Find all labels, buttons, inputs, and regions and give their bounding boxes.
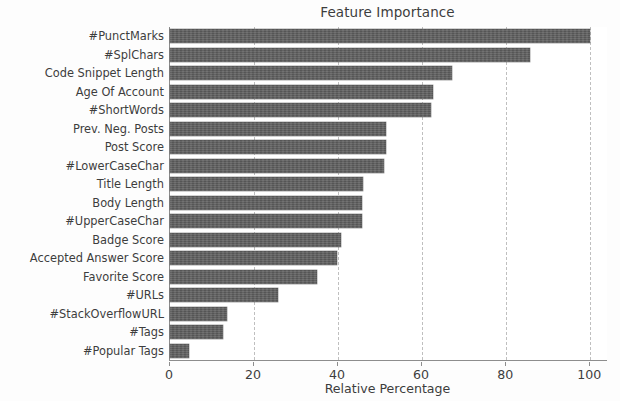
bar [170,196,362,210]
bar-row [170,64,452,83]
x-axis-label: Relative Percentage [169,381,606,396]
chart-title: Feature Importance [169,4,606,20]
y-tick-label: Accepted Answer Score [0,252,164,264]
y-tick-label: #ShortWords [0,104,164,116]
feature-importance-chart: Feature Importance #PunctMarks#SplCharsC… [0,0,620,401]
y-axis-tick-labels: #PunctMarks#SplCharsCode Snippet LengthA… [0,27,164,360]
y-tick-label: #Tags [0,326,164,338]
y-tick-label: Badge Score [0,234,164,246]
y-tick-label: Favorite Score [0,271,164,283]
plot-area [169,27,607,361]
bar [170,233,341,247]
bar [170,159,384,173]
x-tick-mark [253,362,254,366]
y-tick-label: #Popular Tags [0,345,164,357]
y-tick-label: Post Score [0,141,164,153]
bar-row [170,120,386,139]
x-tick-label: 100 [577,367,601,382]
y-tick-label: #PunctMarks [0,30,164,42]
x-tick-label: 60 [413,367,429,382]
bar-row [170,342,189,361]
bar-row [170,268,317,287]
y-tick-label: #StackOverflowURL [0,308,164,320]
bar [170,66,452,80]
y-tick-label: #SplChars [0,49,164,61]
bar-row [170,231,341,250]
bar-row [170,323,223,342]
bar-row [170,286,278,305]
bar [170,85,433,99]
bar [170,288,278,302]
x-tick-mark [421,362,422,366]
x-tick-mark [169,362,170,366]
bar [170,48,530,62]
y-tick-label: Title Length [0,178,164,190]
bar [170,29,590,43]
x-tick-mark [505,362,506,366]
bar [170,270,317,284]
bar-row [170,212,362,231]
x-tick-label: 80 [497,367,513,382]
x-axis-tick-labels: 020406080100 [169,362,606,382]
y-tick-label: #URLs [0,289,164,301]
bar-row [170,175,363,194]
y-tick-label: Age Of Account [0,86,164,98]
x-tick-label: 20 [245,367,261,382]
bar-row [170,27,590,46]
x-tick-mark [589,362,590,366]
y-tick-label: Body Length [0,197,164,209]
bar [170,140,386,154]
bar [170,344,189,358]
bar [170,122,386,136]
bar-row [170,101,431,120]
y-tick-label: #UpperCaseChar [0,215,164,227]
x-tick-label: 40 [329,367,345,382]
bar [170,325,223,339]
bar [170,177,363,191]
bar [170,307,227,321]
bar-row [170,194,362,213]
x-tick-mark [337,362,338,366]
bar-row [170,249,337,268]
bar-row [170,138,386,157]
bar-row [170,305,227,324]
bar-row [170,157,384,176]
bar [170,214,362,228]
y-tick-label: Prev. Neg. Posts [0,123,164,135]
bar-row [170,83,433,102]
bar-series [170,27,607,360]
bar [170,103,431,117]
y-tick-label: #LowerCaseChar [0,160,164,172]
y-tick-label: Code Snippet Length [0,67,164,79]
bar [170,251,337,265]
x-tick-label: 0 [165,367,173,382]
bar-row [170,46,530,65]
